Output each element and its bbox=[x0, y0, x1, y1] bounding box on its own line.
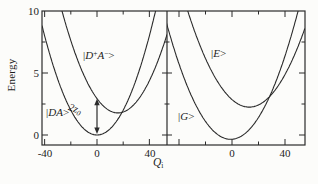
x-tick-label-left-0: 0 bbox=[83, 147, 111, 159]
state-label-e: |E> bbox=[211, 47, 226, 59]
y-tick-label-5: 5 bbox=[20, 67, 39, 79]
curve-e bbox=[166, 0, 305, 107]
y-tick-label-0: 0 bbox=[20, 129, 39, 141]
transition-arrow-head-down bbox=[94, 128, 99, 135]
plot-frame bbox=[42, 11, 305, 145]
state-label-g: |G> bbox=[178, 110, 194, 122]
x-tick-label-left-m40: -40 bbox=[31, 147, 59, 159]
x-tick-label-right-40: 40 bbox=[271, 147, 299, 159]
x-tick-label-right-0: 0 bbox=[218, 147, 246, 159]
y-axis-title: Energy bbox=[5, 45, 17, 105]
y-tick-label-10: 10 bbox=[20, 5, 39, 17]
x-axis-title: Qi bbox=[153, 156, 163, 168]
state-label-da: |DA> bbox=[46, 106, 69, 118]
energy-diagram-figure: Energy 10 5 0 -40 0 40 0 40 Qi |D+A−> |D… bbox=[0, 0, 318, 184]
state-label-d-plus-a-minus: |D+A−> bbox=[83, 49, 115, 61]
